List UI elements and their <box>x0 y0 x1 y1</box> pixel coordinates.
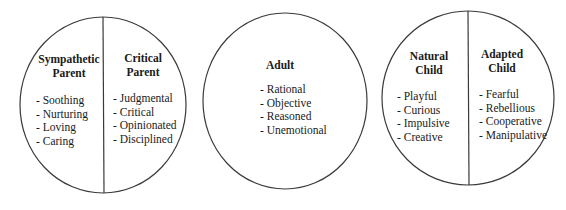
trait-item: - Critical <box>113 106 177 120</box>
title-line: Child <box>475 62 529 76</box>
natural-child-section: Natural Child <box>403 50 455 77</box>
adapted-child-traits: - Fearful - Rebellious - Cooperative - M… <box>479 88 547 142</box>
trait-item: - Loving <box>36 121 88 135</box>
sympathetic-parent-traits: - Soothing - Nurturing - Loving - Caring <box>36 94 88 148</box>
child-divider <box>468 11 469 185</box>
parent-divider <box>103 17 104 193</box>
adult-section: Adult <box>266 59 294 73</box>
critical-parent-title: Critical Parent <box>117 52 169 79</box>
trait-item: - Objective <box>260 97 327 111</box>
title-line: Parent <box>117 66 169 80</box>
trait-item: - Manipulative <box>479 129 547 143</box>
title-line: Adapted <box>475 48 529 62</box>
adapted-child-section: Adapted Child <box>475 48 529 75</box>
adult-traits: - Rational - Objective - Reasoned - Unem… <box>260 83 327 137</box>
trait-item: - Curious <box>397 104 450 118</box>
title-line: Sympathetic <box>36 53 102 67</box>
sympathetic-parent-section: Sympathetic Parent <box>36 53 102 80</box>
trait-item: - Judgmental <box>113 92 177 106</box>
natural-child-title: Natural Child <box>403 50 455 77</box>
trait-item: - Caring <box>36 135 88 149</box>
trait-item: - Rational <box>260 83 327 97</box>
sympathetic-parent-title: Sympathetic Parent <box>36 53 102 80</box>
trait-item: - Opinionated <box>113 119 177 133</box>
trait-item: - Cooperative <box>479 115 547 129</box>
trait-item: - Disciplined <box>113 133 177 147</box>
trait-item: - Fearful <box>479 88 547 102</box>
trait-item: - Impulsive <box>397 117 450 131</box>
trait-item: - Unemotional <box>260 124 327 138</box>
title-line: Child <box>403 64 455 78</box>
title-line: Parent <box>36 67 102 81</box>
trait-item: - Nurturing <box>36 108 88 122</box>
title-line: Critical <box>117 52 169 66</box>
trait-item: - Creative <box>397 131 450 145</box>
trait-item: - Soothing <box>36 94 88 108</box>
trait-item: - Playful <box>397 90 450 104</box>
natural-child-traits: - Playful - Curious - Impulsive - Creati… <box>397 90 450 144</box>
trait-item: - Reasoned <box>260 110 327 124</box>
title-line: Natural <box>403 50 455 64</box>
adult-title: Adult <box>266 59 294 73</box>
critical-parent-traits: - Judgmental - Critical - Opinionated - … <box>113 92 177 146</box>
adapted-child-title: Adapted Child <box>475 48 529 75</box>
critical-parent-section: Critical Parent <box>117 52 169 79</box>
trait-item: - Rebellious <box>479 102 547 116</box>
